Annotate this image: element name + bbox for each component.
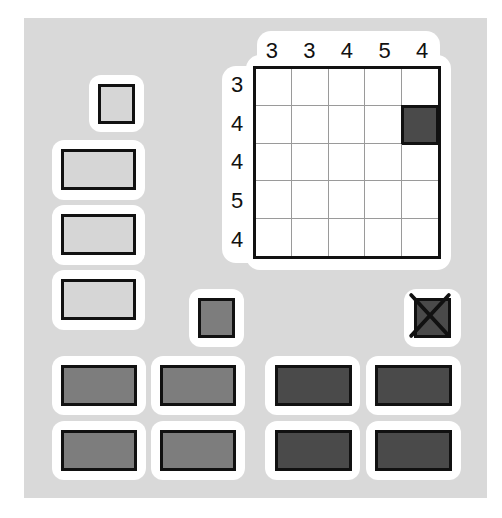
piece-card-dark-rect-3[interactable] (265, 421, 360, 480)
piece-card-light-rect-1[interactable] (52, 140, 145, 200)
row-clue: 4 (224, 220, 250, 259)
piece-card-dark-rect-4[interactable] (366, 421, 461, 480)
light-square-piece[interactable] (98, 84, 135, 124)
piece-card-dark-square-crossed[interactable] (404, 289, 461, 347)
grid-cell[interactable] (292, 144, 328, 181)
grid-cell[interactable] (292, 219, 328, 256)
row-clue: 4 (224, 105, 250, 144)
piece-card-dark-rect-1[interactable] (265, 356, 360, 415)
light-rect-piece[interactable] (61, 149, 136, 190)
grid-cell[interactable] (329, 219, 365, 256)
piece-card-mid-rect-1[interactable] (52, 356, 146, 415)
grid-cell[interactable] (256, 106, 292, 143)
column-clues: 3 3 4 5 4 (253, 36, 441, 66)
piece-card-mid-square[interactable] (189, 289, 244, 347)
piece-card-light-square[interactable] (89, 75, 144, 132)
grid-cell[interactable] (292, 181, 328, 218)
piece-card-mid-rect-3[interactable] (52, 421, 146, 480)
mid-rect-piece[interactable] (61, 365, 137, 406)
row-clue: 3 (224, 66, 250, 105)
dark-rect-piece[interactable] (275, 430, 352, 471)
piece-card-dark-rect-2[interactable] (366, 356, 461, 415)
piece-card-mid-rect-4[interactable] (151, 421, 245, 480)
grid-cell[interactable] (292, 69, 328, 106)
grid-cell[interactable] (329, 144, 365, 181)
row-clue: 4 (224, 143, 250, 182)
grid-cell[interactable] (329, 106, 365, 143)
grid-cell[interactable] (292, 106, 328, 143)
grid-cell[interactable] (256, 144, 292, 181)
game-panel: 3 3 4 5 4 3 4 4 5 4 (24, 18, 487, 498)
piece-card-light-rect-2[interactable] (52, 205, 145, 265)
column-clue: 3 (291, 36, 329, 66)
mid-rect-piece[interactable] (160, 430, 236, 471)
grid-cell[interactable] (402, 69, 438, 106)
grid-cell[interactable] (365, 106, 401, 143)
grid-cell[interactable] (402, 106, 438, 143)
grid-cell[interactable] (365, 69, 401, 106)
mid-square-piece[interactable] (198, 298, 235, 338)
row-clues: 3 4 4 5 4 (224, 66, 250, 259)
dark-square-piece[interactable] (414, 298, 451, 338)
column-clue: 4 (403, 36, 441, 66)
row-clue: 5 (224, 182, 250, 221)
grid-cell[interactable] (256, 219, 292, 256)
grid-cell[interactable] (402, 219, 438, 256)
dark-rect-piece[interactable] (375, 430, 452, 471)
grid-cell[interactable] (365, 181, 401, 218)
dark-rect-piece[interactable] (375, 365, 452, 406)
grid-cell[interactable] (402, 181, 438, 218)
grid-cell[interactable] (402, 144, 438, 181)
grid-cell[interactable] (256, 181, 292, 218)
light-rect-piece[interactable] (61, 279, 136, 320)
piece-card-mid-rect-2[interactable] (151, 356, 245, 415)
column-clue: 4 (328, 36, 366, 66)
grid-cell[interactable] (365, 219, 401, 256)
x-mark-icon (417, 301, 448, 335)
grid-cell[interactable] (329, 181, 365, 218)
grid-cell[interactable] (256, 69, 292, 106)
puzzle-grid[interactable] (253, 66, 441, 259)
grid-cell[interactable] (365, 144, 401, 181)
piece-card-light-rect-3[interactable] (52, 270, 145, 330)
grid-cell[interactable] (329, 69, 365, 106)
dark-rect-piece[interactable] (275, 365, 352, 406)
light-rect-piece[interactable] (61, 214, 136, 255)
mid-rect-piece[interactable] (160, 365, 236, 406)
mid-rect-piece[interactable] (61, 430, 137, 471)
column-clue: 5 (366, 36, 404, 66)
column-clue: 3 (253, 36, 291, 66)
